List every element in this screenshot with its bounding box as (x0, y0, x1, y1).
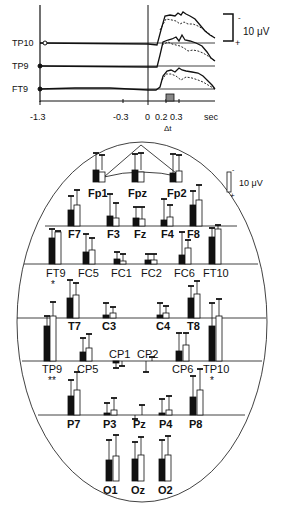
electrode-label: T7 (68, 320, 81, 332)
electrode-label: P8 (189, 418, 202, 430)
electrode-label: CP5 (77, 363, 98, 375)
electrode-label: FT9 (46, 267, 66, 279)
x-tick-label: 0.2 (155, 112, 168, 122)
electrode-label: F7 (68, 228, 81, 240)
electrode-label: P3 (103, 418, 116, 430)
electrode-label: Fz (134, 228, 147, 240)
electrode-label: CP1 (109, 348, 130, 360)
significance-marker: ** (48, 375, 56, 386)
electrode-label: FC6 (174, 267, 195, 279)
significance-marker: * (51, 279, 55, 290)
electrode-label: C4 (156, 320, 171, 332)
electrode-label: FT10 (203, 267, 229, 279)
electrode-label: FC5 (78, 267, 99, 279)
waveform-scale-label: 10 μV (243, 26, 270, 37)
delta-t-label: Δt (164, 124, 172, 133)
channel-label-ft9: FT9 (12, 84, 28, 94)
tp10-wave-solid (40, 12, 215, 45)
waveform-scale-bar (223, 14, 233, 41)
electrode-label: Fp2 (167, 187, 187, 199)
headmap-scale-bar (227, 172, 231, 192)
ft9-wave-solid (40, 68, 215, 90)
significance-marker: * (210, 375, 214, 386)
electrode-label: CP2 (137, 348, 158, 360)
electrode-bars (44, 153, 222, 481)
headmap-scale-label: 10 μV (239, 178, 263, 188)
electrode-label: CP6 (172, 363, 193, 375)
electrode-label: F3 (107, 228, 120, 240)
delta-t-window (166, 94, 174, 101)
electrode-labels: Fp1 Fpz Fp2 F7 F3 Fz F4 F8 FT9 FC5 FC1 F… (42, 187, 229, 496)
x-tick-label: -1.3 (30, 112, 46, 122)
channel-label-tp9: TP9 (12, 61, 29, 71)
x-tick-label: -0.3 (113, 112, 129, 122)
electrode-label: O2 (158, 484, 173, 496)
x-tick-label: 0 (145, 112, 150, 122)
electrode-label: O1 (103, 484, 118, 496)
channel-label-tp10: TP10 (12, 38, 34, 48)
tp10-wave-dashed (160, 19, 215, 38)
electrode-label: TP10 (203, 363, 229, 375)
headmap-scale-plus: + (230, 191, 235, 200)
electrode-label: F8 (187, 228, 200, 240)
electrode-label: TP9 (42, 363, 62, 375)
ft9-wave-dashed (162, 74, 215, 89)
electrode-label: F4 (161, 228, 175, 240)
headmap-scale-minus: - (232, 166, 235, 173)
electrode-label: Fp1 (88, 187, 108, 199)
x-unit-label: sec (204, 112, 219, 122)
electrode-label: FC2 (141, 267, 162, 279)
electrode-label: Fpz (128, 187, 147, 199)
electrode-label: P7 (67, 418, 80, 430)
electrode-label: Oz (131, 484, 146, 496)
x-tick-label: 0.3 (170, 112, 183, 122)
scale-plus-sign: + (235, 38, 240, 48)
electrode-label: Pz (133, 418, 146, 430)
waveform-panel (38, 5, 233, 105)
electrode-label: P4 (159, 418, 173, 430)
electrode-label: FC1 (111, 267, 132, 279)
electrode-label: C3 (102, 320, 116, 332)
electrode-label: T8 (187, 320, 200, 332)
scale-minus-sign: - (238, 13, 241, 22)
erp-figure: TP10 TP9 FT9 -1.3 -0.3 0 0.2 0.3 sec Δt … (0, 0, 285, 509)
